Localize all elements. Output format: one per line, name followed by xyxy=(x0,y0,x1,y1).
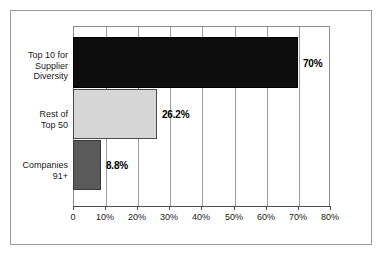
chart-figure: Top 10 for Supplier Diversity Rest of To… xyxy=(0,0,384,257)
x-tick-label-40: 40% xyxy=(192,212,210,222)
bar-value-top10: 70% xyxy=(303,57,322,68)
x-tick-mark-50 xyxy=(234,206,235,210)
x-tick-label-70: 70% xyxy=(289,212,307,222)
bar-value-companies-91plus: 8.8% xyxy=(106,160,128,171)
bar-row-companies-91plus: 8.8% xyxy=(73,140,330,190)
x-axis-line xyxy=(73,206,331,207)
x-tick-label-50: 50% xyxy=(225,212,243,222)
category-label-top10: Top 10 for Supplier Diversity xyxy=(28,50,68,82)
x-tick-label-0: 0 xyxy=(70,212,75,222)
x-tick-mark-80 xyxy=(330,206,331,210)
x-tick-mark-30 xyxy=(169,206,170,210)
bar-companies-91plus xyxy=(73,140,101,190)
x-tick-mark-20 xyxy=(137,206,138,210)
x-tick-mark-60 xyxy=(266,206,267,210)
x-tick-mark-10 xyxy=(105,206,106,210)
bar-value-rest-of-top50: 26.2% xyxy=(162,109,189,120)
x-tick-label-80: 80% xyxy=(321,212,339,222)
x-tick-mark-40 xyxy=(201,206,202,210)
bar-row-top10: 70% xyxy=(73,37,330,88)
x-tick-label-30: 30% xyxy=(160,212,178,222)
x-tick-mark-0 xyxy=(73,206,74,210)
bar-top10 xyxy=(73,37,298,88)
category-label-rest-of-top50: Rest of Top 50 xyxy=(39,109,68,130)
x-tick-label-20: 20% xyxy=(128,212,146,222)
x-tick-label-10: 10% xyxy=(96,212,114,222)
x-tick-label-60: 60% xyxy=(257,212,275,222)
bars-group: 70% 26.2% 8.8% xyxy=(73,26,330,206)
category-label-companies-91plus: Companies 91+ xyxy=(22,160,68,181)
x-tick-mark-70 xyxy=(298,206,299,210)
bar-rest-of-top50 xyxy=(73,89,157,139)
bar-row-rest-of-top50: 26.2% xyxy=(73,89,330,139)
